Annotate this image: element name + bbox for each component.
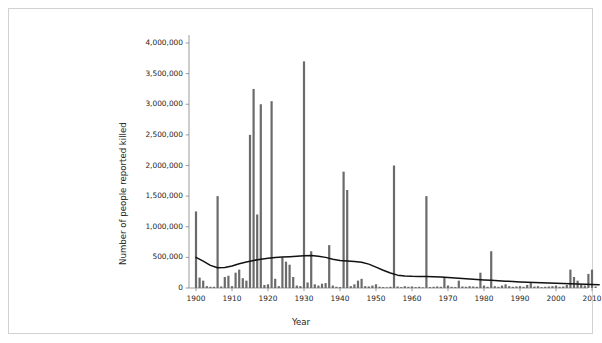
- x-tick-label: 1920: [254, 294, 282, 303]
- y-axis-title: Number of people reported killed: [118, 122, 128, 265]
- y-tick-label: 1,000,000: [120, 222, 183, 231]
- x-tick-label: 1960: [398, 294, 426, 303]
- y-tick-label: 4,000,000: [120, 38, 183, 47]
- x-tick-label: 1950: [362, 294, 390, 303]
- axis-lines: [189, 35, 588, 288]
- x-tick-label: 1990: [506, 294, 534, 303]
- x-tick-label: 1940: [326, 294, 354, 303]
- y-tick-label: 2,500,000: [120, 130, 183, 139]
- x-tick-label: 1970: [434, 294, 462, 303]
- x-tick-label: 2010: [578, 294, 602, 303]
- x-tick-label: 1930: [290, 294, 318, 303]
- y-tick-label: 0: [120, 283, 183, 292]
- x-tick-label: 1910: [218, 294, 246, 303]
- y-tick-label: 3,500,000: [120, 69, 183, 78]
- x-tick-label: 1980: [470, 294, 498, 303]
- y-tick-label: 3,000,000: [120, 99, 183, 108]
- bar-series: [195, 61, 597, 288]
- x-axis-title: Year: [0, 317, 602, 327]
- y-tick-label: 500,000: [120, 252, 183, 261]
- y-tick-label: 2,000,000: [120, 161, 183, 170]
- tick-marks: [186, 43, 592, 291]
- x-tick-label: 2000: [542, 294, 570, 303]
- y-tick-label: 1,500,000: [120, 191, 183, 200]
- chart-plot: [0, 0, 602, 343]
- x-tick-label: 1900: [182, 294, 210, 303]
